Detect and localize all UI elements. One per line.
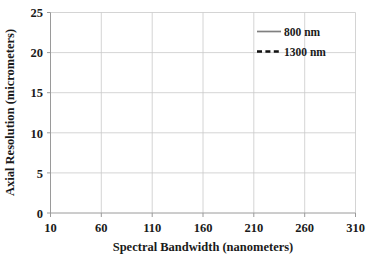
x-tick-label-160: 160 (194, 221, 213, 235)
y-tick-label-25: 25 (31, 6, 44, 20)
y-tick-label-10: 10 (31, 127, 44, 141)
x-tick-label-10: 10 (44, 221, 57, 235)
x-axis-title: Spectral Bandwidth (nanometers) (113, 240, 294, 254)
axial-resolution-line-chart: 25 20 15 10 5 0 10 60 110 160 210 260 31… (0, 0, 383, 265)
y-tick-label-5: 5 (37, 167, 43, 181)
legend-label-800nm: 800 nm (284, 26, 321, 38)
chart-figure: 25 20 15 10 5 0 10 60 110 160 210 260 31… (0, 0, 383, 265)
y-tick-label-0: 0 (37, 207, 43, 221)
x-tick-label-210: 210 (244, 221, 263, 235)
x-tick-label-310: 310 (346, 221, 365, 235)
x-tick-label-110: 110 (143, 221, 161, 235)
y-axis-title: Axial Resolution (micrometers) (3, 29, 17, 196)
y-tick-label-20: 20 (31, 46, 44, 60)
x-tick-label-60: 60 (95, 221, 108, 235)
y-tick-label-15: 15 (31, 86, 44, 100)
x-tick-label-260: 260 (295, 221, 314, 235)
legend-label-1300nm: 1300 nm (284, 46, 326, 58)
